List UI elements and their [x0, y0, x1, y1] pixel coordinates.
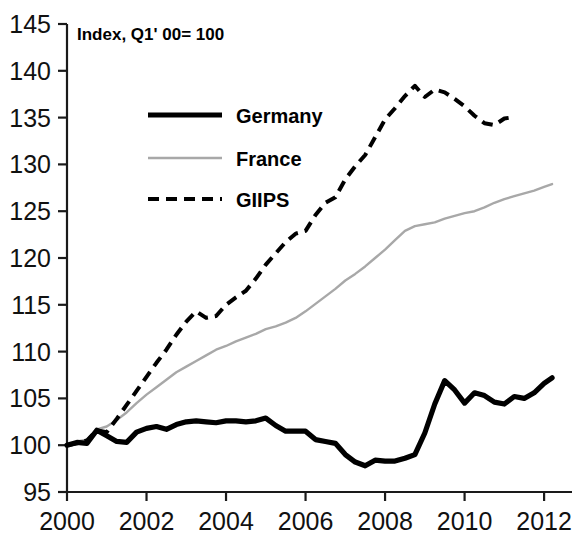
- y-axis-tick-marks: [58, 24, 67, 492]
- x-tick-label: 2008: [357, 507, 413, 535]
- y-tick-label: 100: [9, 431, 51, 459]
- legend-label-giips: GIIPS: [236, 189, 289, 211]
- x-tick-label: 2000: [39, 507, 95, 535]
- x-axis-tick-marks: [67, 492, 544, 501]
- y-tick-label: 145: [9, 10, 51, 38]
- line-chart: 95100105110115120125130135140145 2000200…: [0, 0, 584, 541]
- series-line-giips: [67, 86, 510, 445]
- y-tick-label: 95: [23, 478, 51, 506]
- x-tick-label: 2006: [278, 507, 334, 535]
- chart-legend: Germany France GIIPS: [148, 105, 324, 211]
- chart-canvas: 95100105110115120125130135140145 2000200…: [0, 0, 584, 541]
- y-tick-label: 115: [11, 291, 51, 319]
- legend-label-france: France: [236, 148, 302, 170]
- x-tick-label: 2002: [119, 507, 175, 535]
- x-tick-label: 2012: [516, 507, 572, 535]
- y-tick-label: 140: [9, 57, 51, 85]
- y-tick-label: 135: [9, 104, 51, 132]
- y-tick-label: 105: [9, 384, 51, 412]
- y-tick-label: 110: [11, 338, 51, 366]
- y-axis-tick-labels: 95100105110115120125130135140145: [9, 10, 51, 506]
- legend-label-germany: Germany: [236, 105, 324, 127]
- x-tick-label: 2010: [437, 507, 493, 535]
- x-axis-tick-labels: 2000200220042006200820102012: [39, 507, 572, 535]
- y-tick-label: 130: [9, 150, 51, 178]
- series-layer: [67, 86, 552, 466]
- y-tick-label: 125: [9, 197, 51, 225]
- x-tick-label: 2004: [198, 507, 254, 535]
- series-line-germany: [67, 378, 552, 466]
- y-tick-label: 120: [9, 244, 51, 272]
- index-note: Index, Q1' 00= 100: [77, 25, 224, 44]
